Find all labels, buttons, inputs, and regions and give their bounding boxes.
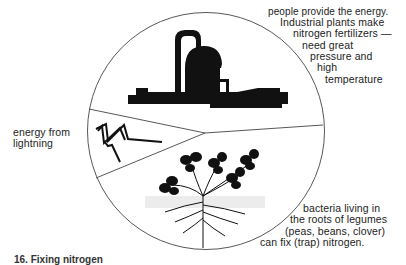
label-lightning-line-1: lightning <box>13 138 53 149</box>
label-industrial-line-2: nitrogen fertilizers — <box>293 28 391 39</box>
label-legumes-line-3: can fix (trap) nitrogen. <box>260 237 365 248</box>
divider-line-right <box>205 125 323 133</box>
lightning-icon <box>96 124 162 162</box>
factory-icon <box>128 30 288 108</box>
label-legumes-line-1: the roots of legumes <box>290 214 387 225</box>
label-industrial-line-6: temperature <box>325 74 383 85</box>
legume-plant-icon <box>145 149 265 248</box>
label-industrial-line-5: high <box>317 62 337 73</box>
figure-caption: 16. Fixing nitrogen <box>14 254 103 265</box>
